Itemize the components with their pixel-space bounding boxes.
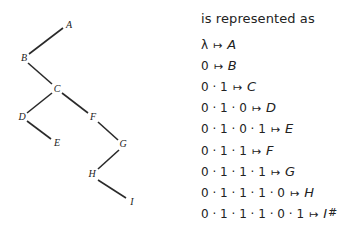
maps-to-arrow-icon: ↦ bbox=[213, 39, 222, 52]
mapping-row: 0 · 1 · 1 · 1 ↦ G bbox=[201, 165, 295, 179]
maps-to-arrow-icon: ↦ bbox=[309, 208, 318, 221]
maps-to-arrow-icon: ↦ bbox=[252, 102, 261, 115]
maps-to-arrow-icon: ↦ bbox=[252, 145, 261, 158]
mapping-path: 0 · 1 · 1 bbox=[201, 144, 247, 158]
mapping-row: 0 · 1 · 1 · 1 · 0 · 1 ↦ I bbox=[201, 207, 327, 221]
tree-node-d: D bbox=[18, 112, 25, 122]
maps-to-arrow-icon: ↦ bbox=[271, 123, 280, 136]
edge-g-h bbox=[98, 150, 119, 169]
mapping-path: 0 bbox=[201, 59, 209, 73]
mapping-path: 0 · 1 bbox=[201, 80, 228, 94]
tree-node-i: I bbox=[130, 197, 133, 207]
maps-to-arrow-icon: ↦ bbox=[271, 166, 280, 179]
mapping-target: I bbox=[323, 206, 327, 221]
tree-node-b: B bbox=[21, 53, 27, 63]
edge-c-d bbox=[27, 93, 52, 113]
mapping-target: D bbox=[266, 100, 276, 115]
mapping-target: F bbox=[266, 143, 273, 158]
mapping-row: λ ↦ A bbox=[201, 38, 236, 52]
tree-node-c: C bbox=[54, 84, 61, 94]
tree-node-g: G bbox=[119, 139, 126, 149]
edge-b-c bbox=[28, 63, 52, 84]
edge-h-i bbox=[98, 180, 126, 198]
caption: is represented as bbox=[201, 11, 315, 26]
maps-to-arrow-icon: ↦ bbox=[233, 81, 242, 94]
mapping-path: λ bbox=[201, 38, 208, 52]
tree-node-f: F bbox=[90, 112, 96, 122]
edge-c-f bbox=[62, 93, 88, 113]
mapping-path: 0 · 1 · 1 · 1 · 0 bbox=[201, 186, 285, 200]
tree-node-e: E bbox=[54, 138, 60, 148]
mapping-row: 0 · 1 · 0 · 1 ↦ E bbox=[201, 122, 293, 136]
end-of-example-mark: # bbox=[328, 206, 337, 219]
mapping-target: A bbox=[227, 37, 236, 52]
mapping-path: 0 · 1 · 0 bbox=[201, 101, 247, 115]
mapping-target: G bbox=[285, 164, 295, 179]
edge-a-b bbox=[29, 28, 63, 54]
edge-d-e bbox=[27, 121, 51, 139]
mapping-target: C bbox=[247, 79, 256, 94]
mapping-path: 0 · 1 · 0 · 1 bbox=[201, 122, 266, 136]
mapping-row: 0 · 1 · 1 · 1 · 0 ↦ H bbox=[201, 186, 314, 200]
mapping-row: 0 · 1 ↦ C bbox=[201, 80, 256, 94]
mapping-path: 0 · 1 · 1 · 1 · 0 · 1 bbox=[201, 207, 304, 221]
mapping-row: 0 · 1 · 1 ↦ F bbox=[201, 144, 273, 158]
mapping-target: E bbox=[285, 121, 293, 136]
tree-node-a: A bbox=[66, 20, 72, 30]
tree-node-h: H bbox=[88, 169, 95, 179]
mapping-target: B bbox=[228, 58, 237, 73]
maps-to-arrow-icon: ↦ bbox=[214, 60, 223, 73]
mapping-target: H bbox=[304, 185, 314, 200]
mapping-path: 0 · 1 · 1 · 1 bbox=[201, 165, 266, 179]
maps-to-arrow-icon: ↦ bbox=[290, 187, 299, 200]
mapping-row: 0 · 1 · 0 ↦ D bbox=[201, 101, 276, 115]
edge-f-g bbox=[98, 122, 118, 140]
mapping-row: 0 ↦ B bbox=[201, 59, 237, 73]
